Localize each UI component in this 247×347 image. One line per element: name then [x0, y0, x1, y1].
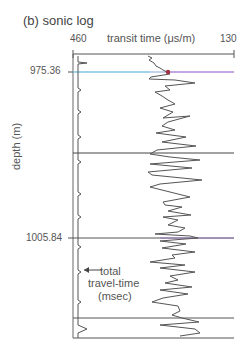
sonic-log-plot [0, 0, 247, 347]
